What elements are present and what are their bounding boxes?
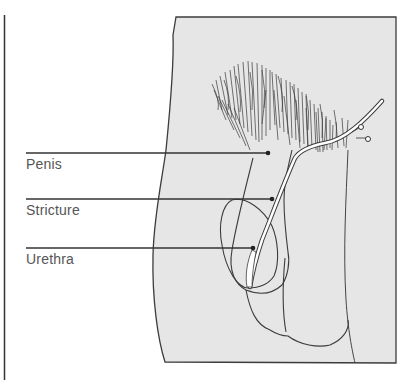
leader-dot-stricture	[270, 197, 275, 202]
catheter-valve-2	[366, 137, 371, 142]
label-stricture: Stricture	[26, 202, 80, 218]
label-penis: Penis	[26, 156, 62, 172]
catheter-valve-1	[359, 125, 364, 130]
leader-dot-urethra	[251, 246, 256, 251]
label-urethra: Urethra	[26, 251, 74, 267]
body-panel	[153, 17, 396, 363]
leader-dot-penis	[266, 151, 271, 156]
diagram-figure: Penis Stricture Urethra	[0, 0, 410, 380]
